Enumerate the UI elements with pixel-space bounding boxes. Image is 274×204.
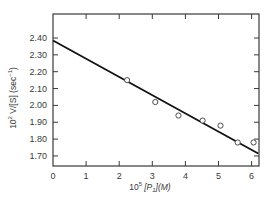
y-tick-label: 2.10 [29, 84, 47, 94]
chart: 0123456 1.701.801.902.002.102.202.302.40… [0, 0, 274, 204]
data-point-marker [235, 140, 240, 145]
x-tick-label: 3 [150, 171, 155, 181]
y-tick-label: 2.30 [29, 50, 47, 60]
x-tick-label: 5 [216, 171, 221, 181]
plot-border [53, 14, 259, 166]
fit-line [53, 41, 258, 154]
y-tick-label: 1.80 [29, 134, 47, 144]
plot-frame [53, 14, 259, 166]
data-point-marker [218, 123, 223, 128]
data-point-marker [200, 118, 205, 123]
y-tick-label: 2.00 [29, 100, 47, 110]
y-tick-label: 2.40 [29, 33, 47, 43]
y-axis-title: 102 V/[S] (sec−1) [7, 67, 18, 129]
x-axis-title: 105[P1](M) [129, 181, 170, 193]
axis-ticks [53, 14, 259, 166]
x-tick-label: 2 [117, 171, 122, 181]
x-tick-label: 6 [249, 171, 254, 181]
data-points [125, 78, 257, 146]
data-point-marker [153, 99, 158, 104]
y-tick-label: 1.90 [29, 117, 47, 127]
data-point-marker [125, 78, 130, 83]
x-tick-label: 0 [50, 171, 55, 181]
data-point-marker [251, 140, 256, 145]
y-tick-labels: 1.701.801.902.002.102.202.302.40 [29, 33, 47, 161]
x-tick-labels: 0123456 [50, 171, 254, 181]
regression-line [53, 41, 258, 154]
data-point-marker [176, 113, 181, 118]
y-tick-label: 1.70 [29, 151, 47, 161]
x-tick-label: 4 [183, 171, 188, 181]
x-tick-label: 1 [84, 171, 89, 181]
chart-canvas: 0123456 1.701.801.902.002.102.202.302.40… [0, 0, 274, 204]
y-tick-label: 2.20 [29, 67, 47, 77]
